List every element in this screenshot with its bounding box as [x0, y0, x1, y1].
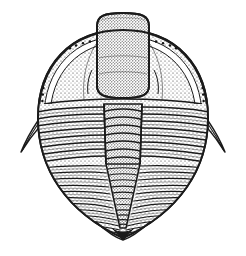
glabella: [97, 13, 149, 98]
axial-lobe-thorax: [103, 104, 143, 166]
trilobite-illustration: trilobite: [0, 0, 246, 256]
illustration-canvas: trilobite: [0, 0, 246, 256]
